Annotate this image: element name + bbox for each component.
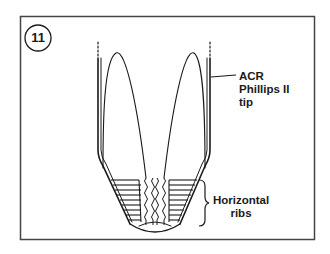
tip-outline (98, 42, 210, 232)
ribs-label-line-1: Horizontal (210, 194, 272, 207)
ribs-label-line-2: ribs (210, 207, 272, 220)
figure-number: 11 (24, 24, 52, 52)
ribs-brace (199, 180, 209, 226)
tip-label-line-2: Phillips II (239, 83, 289, 96)
tip-label: ACR Phillips II tip (239, 70, 289, 109)
ribs-label: Horizontal ribs (210, 194, 272, 220)
tip-label-line-3: tip (239, 96, 289, 109)
tip-leader-line (211, 75, 236, 77)
tip-label-line-1: ACR (239, 70, 289, 83)
center-threads (145, 178, 166, 225)
